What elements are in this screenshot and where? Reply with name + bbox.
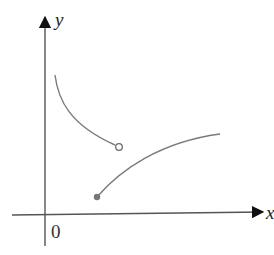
y-axis-label: y bbox=[53, 9, 64, 30]
graph-svg: y x 0 bbox=[0, 0, 274, 255]
origin-label: 0 bbox=[51, 221, 61, 242]
graph-figure: y x 0 bbox=[0, 0, 274, 255]
x-axis-label: x bbox=[265, 202, 274, 223]
x-axis bbox=[12, 212, 263, 215]
left-curve bbox=[55, 75, 115, 145]
open-endpoint bbox=[116, 144, 123, 151]
filled-endpoint bbox=[94, 194, 100, 200]
right-curve bbox=[97, 134, 220, 197]
